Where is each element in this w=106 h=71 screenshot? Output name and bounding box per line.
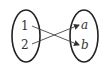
codomain-element-b: b [81,38,89,52]
domain-set-ellipse [12,10,40,62]
domain-element-2: 2 [21,38,29,52]
domain-element-1: 1 [21,19,29,33]
codomain-element-a: a [81,18,88,32]
mapping-diagram: 1 2 a b [0,0,106,71]
